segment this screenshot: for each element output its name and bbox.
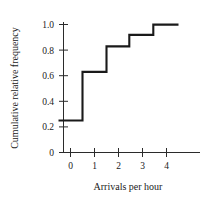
y-tick-label-0.6: 0.6 [42,71,54,81]
x-tick-label-3: 3 [140,161,145,171]
y-tick-label-0.4: 0.4 [42,97,54,107]
x-tick-label-0: 0 [68,161,73,171]
x-tick-label-2: 2 [116,161,121,171]
y-tick-label-0: 0 [49,148,54,158]
y-tick-label-0.2: 0.2 [42,122,54,132]
x-axis-title: Arrivals per hour [94,181,164,192]
y-tick-label-1.0: 1.0 [42,20,54,30]
step-function-line [59,25,179,121]
cumulative-frequency-step-chart: 1.0 0.8 0.6 0.4 0.2 0 0 1 2 3 4 Arrivals… [0,0,209,200]
x-tick-label-4: 4 [164,161,169,171]
x-tick-label-1: 1 [92,161,97,171]
y-tick-label-0.8: 0.8 [42,46,54,56]
chart-figure: 1.0 0.8 0.6 0.4 0.2 0 0 1 2 3 4 Arrivals… [0,0,209,200]
y-axis-title: Cumulative relative frequency [9,27,20,149]
